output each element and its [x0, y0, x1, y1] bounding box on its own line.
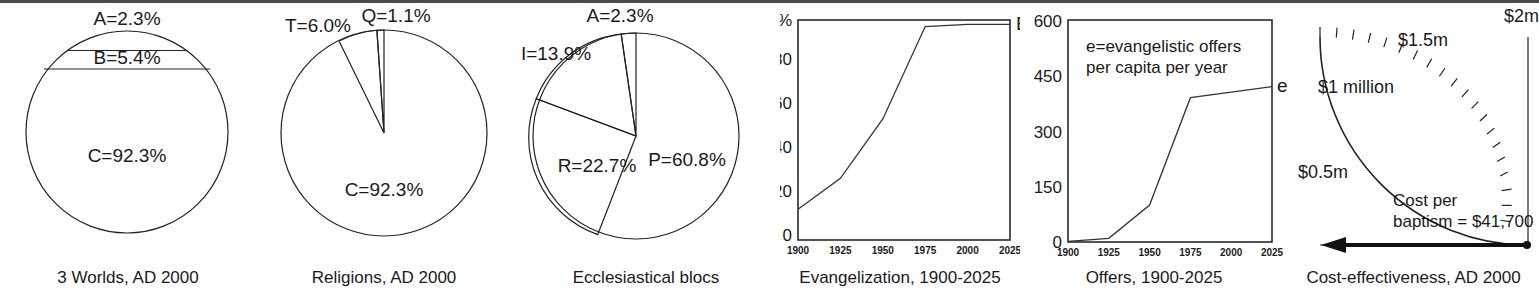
label-bloc-p: P=60.8% [648, 149, 726, 170]
caption-religions: Religions, AD 2000 [256, 268, 512, 288]
gauge-label-0-5m: $0.5m [1298, 162, 1348, 182]
cost-note-line2: baptism = $41,700 [1393, 212, 1533, 231]
label-world-a: A=2.3% [93, 8, 160, 29]
religions-chart: T=6.0% Q=1.1% C=92.3% [256, 0, 512, 270]
label-religion-t: T=6.0% [285, 15, 351, 36]
gauge-label-2m: $2m [1504, 6, 1539, 26]
offers-xtick-1975: 1975 [1179, 247, 1202, 258]
offers-ytick-300: 300 [1034, 123, 1062, 142]
panel-cost-effectiveness: $0.5m $1 million $1.5m $2m Cost per bapt… [1288, 0, 1539, 296]
cost-effectiveness-chart: $0.5m $1 million $1.5m $2m Cost per bapt… [1288, 0, 1539, 270]
evangelization-y-unit: % [780, 11, 792, 30]
evangelization-series-E [798, 24, 1010, 209]
cost-note-line1: Cost per [1393, 191, 1458, 210]
caption-ecclesiastical-blocs: Ecclesiastical blocs [512, 268, 780, 288]
offers-ytick-450: 450 [1034, 67, 1062, 86]
offers-xtick-2025: 2025 [1261, 247, 1284, 258]
label-bloc-i: I=13.9% [521, 43, 591, 64]
offers-chart: 600 450 300 150 0 1900 1925 1950 1975 20… [1020, 0, 1288, 270]
evangelization-xtick-1975: 1975 [914, 245, 937, 256]
label-bloc-a: A=2.3% [586, 5, 653, 26]
offers-note-line1: e=evangelistic offers [1086, 37, 1241, 56]
label-world-b: B=5.4% [93, 47, 160, 68]
evangelization-plot-frame [798, 20, 1010, 240]
panel-religions: T=6.0% Q=1.1% C=92.3% Religions, AD 2000 [256, 0, 512, 296]
statistics-figure: A=2.3% B=5.4% C=92.3% 3 Worlds, AD 2000 … [0, 0, 1539, 296]
offers-series-mark: e [1277, 75, 1288, 96]
label-religion-q: Q=1.1% [361, 5, 430, 26]
label-religion-c: C=92.3% [345, 179, 424, 200]
three-worlds-chart: A=2.3% B=5.4% C=92.3% [0, 0, 256, 270]
panel-offers: 600 450 300 150 0 1900 1925 1950 1975 20… [1020, 0, 1288, 296]
caption-evangelization: Evangelization, 1900-2025 [780, 268, 1020, 288]
panel-three-worlds: A=2.3% B=5.4% C=92.3% 3 Worlds, AD 2000 [0, 0, 256, 296]
evangelization-ytick-80: 80 [780, 50, 792, 69]
ecclesiastical-blocs-chart: A=2.3% I=13.9% R=22.7% P=60.8% [512, 0, 780, 270]
evangelization-xtick-1925: 1925 [829, 245, 852, 256]
offers-series-e [1068, 87, 1272, 242]
offers-ytick-150: 150 [1034, 178, 1062, 197]
offers-xtick-1900: 1900 [1057, 247, 1080, 258]
gauge-pointer-head [1321, 237, 1346, 253]
offers-note-line2: per capita per year [1086, 58, 1228, 77]
label-world-c: C=92.3% [88, 145, 167, 166]
panel-ecclesiastical-blocs: A=2.3% I=13.9% R=22.7% P=60.8% Ecclesias… [512, 0, 780, 296]
gauge-pointer [1321, 237, 1531, 253]
evangelization-ytick-20: 20 [780, 182, 792, 201]
offers-xtick-1925: 1925 [1098, 247, 1121, 258]
gauge-label-1-5m: $1.5m [1398, 30, 1448, 50]
caption-three-worlds: 3 Worlds, AD 2000 [0, 268, 256, 288]
evangelization-ytick-0: 0 [783, 226, 792, 245]
label-bloc-r: R=22.7% [558, 155, 637, 176]
offers-ytick-600: 600 [1034, 12, 1062, 31]
offers-xtick-1950: 1950 [1138, 247, 1161, 258]
caption-offers: Offers, 1900-2025 [1020, 268, 1288, 288]
evangelization-xtick-1950: 1950 [872, 245, 895, 256]
religions-wedge-t [339, 30, 384, 133]
evangelization-chart: % 80 60 40 20 0 1900 1925 1950 1975 2000… [780, 0, 1020, 270]
offers-xtick-2000: 2000 [1220, 247, 1243, 258]
evangelization-xtick-2000: 2000 [956, 245, 979, 256]
panel-evangelization: % 80 60 40 20 0 1900 1925 1950 1975 2000… [780, 0, 1020, 296]
evangelization-ytick-60: 60 [780, 94, 792, 113]
evangelization-xtick-1900: 1900 [787, 245, 810, 256]
evangelization-xtick-2025: 2025 [999, 245, 1020, 256]
evangelization-ytick-40: 40 [780, 138, 792, 157]
caption-cost-effectiveness: Cost-effectiveness, AD 2000 [1288, 268, 1539, 288]
gauge-label-1-million: $1 million [1318, 77, 1394, 97]
